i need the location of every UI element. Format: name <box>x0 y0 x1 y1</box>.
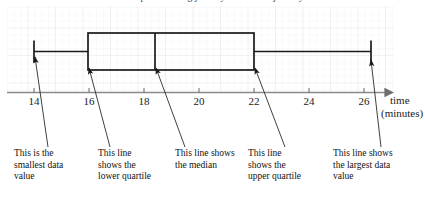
grid-background <box>7 6 394 92</box>
annotation-minimum-text: This is the smallest data value <box>14 148 84 183</box>
x-axis-unit-label: (minutes) <box>381 107 423 119</box>
box-plot-figure: Box plot showing journey times for a jou… <box>0 0 425 202</box>
x-tick-label-14: 14 <box>19 96 49 107</box>
x-axis-label: time <box>390 94 410 106</box>
x-tick-label-22: 22 <box>239 96 269 107</box>
annotation-upper-quartile-text: This line shows the upper quartile <box>248 148 306 183</box>
annotation-maximum-text: This line shows the largest data value <box>333 148 401 183</box>
x-tick-label-16: 16 <box>74 96 104 107</box>
x-tick-label-20: 20 <box>184 96 214 107</box>
annotation-median-text: This line shows the median <box>175 148 237 171</box>
x-tick-label-18: 18 <box>129 96 159 107</box>
annotation-lower-quartile-text: This line shows the lower quartile <box>98 148 156 183</box>
x-tick-label-26: 26 <box>349 96 379 107</box>
x-tick-label-24: 24 <box>294 96 324 107</box>
